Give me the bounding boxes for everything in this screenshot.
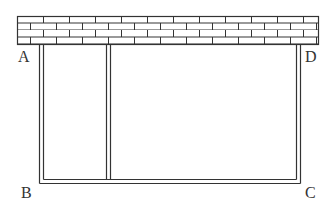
label-d: D	[305, 48, 317, 65]
brick-wall	[18, 17, 319, 45]
label-a: A	[18, 48, 30, 65]
right-post-dc	[297, 45, 301, 184]
label-b: B	[21, 184, 32, 201]
label-c: C	[305, 184, 316, 201]
frame-diagram: A B C D	[0, 0, 328, 210]
left-post-ab	[40, 45, 44, 184]
middle-partition	[107, 45, 111, 180]
bottom-beam-bc	[40, 180, 301, 184]
